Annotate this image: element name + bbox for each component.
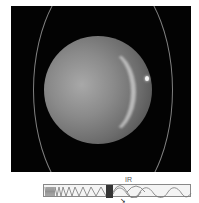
spectrum-label: IR bbox=[125, 176, 132, 183]
spectrum-bar bbox=[43, 184, 191, 197]
bright-spot bbox=[145, 76, 149, 81]
planet-disk bbox=[44, 36, 152, 144]
wave-icon bbox=[44, 185, 192, 198]
planet-photo bbox=[11, 6, 191, 172]
bright-band bbox=[78, 50, 136, 134]
pointer-arrow-icon: ➘ bbox=[120, 197, 126, 203]
